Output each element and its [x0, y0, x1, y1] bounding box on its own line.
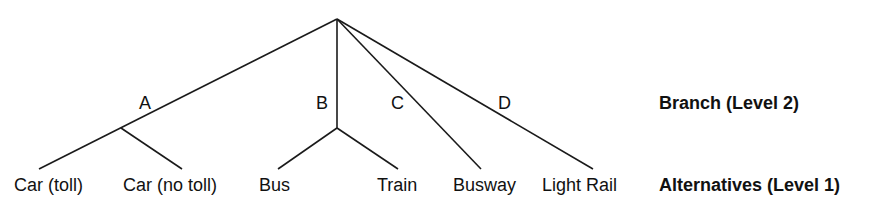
- alternative-bus: Bus: [259, 175, 290, 195]
- edge-root-to-car-toll: [39, 19, 337, 169]
- edge-nest-b-to-bus: [278, 128, 337, 169]
- legend-level-1: Alternatives (Level 1): [659, 175, 840, 195]
- alternative-car-no-toll: Car (no toll): [123, 175, 217, 195]
- edge-nest-a-to-car-no-toll: [121, 128, 182, 169]
- branch-label-a: A: [139, 93, 151, 113]
- alternative-light-rail: Light Rail: [542, 175, 617, 195]
- alternative-busway: Busway: [453, 175, 516, 195]
- branch-label-b: B: [316, 93, 328, 113]
- edge-nest-b-to-train: [337, 128, 398, 169]
- branch-label-c: C: [391, 93, 404, 113]
- edge-root-to-busway: [337, 19, 481, 169]
- alternative-train: Train: [377, 175, 417, 195]
- legend-level-2: Branch (Level 2): [659, 93, 799, 113]
- branch-label-d: D: [498, 93, 511, 113]
- alternative-car-toll: Car (toll): [14, 175, 83, 195]
- edge-root-to-light-rail: [337, 19, 593, 169]
